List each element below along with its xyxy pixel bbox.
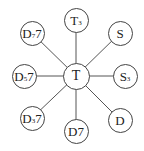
node-center-T: T: [63, 63, 90, 90]
node-label: T: [72, 69, 81, 83]
node-label: D: [115, 114, 124, 127]
node-D57: D57: [12, 64, 37, 89]
node-D77: D77: [20, 21, 45, 46]
node-D37: D37: [20, 106, 45, 131]
node-D: D: [108, 108, 133, 133]
node-S: S: [108, 21, 133, 46]
node-suffix: 7: [27, 70, 34, 83]
node-subscript: 3: [78, 20, 82, 27]
chord-diagram: T T3 S S3 D D7 D37 D57 D77: [0, 0, 144, 151]
node-D7: D7: [64, 119, 89, 144]
node-suffix: 7: [77, 125, 84, 138]
node-subscript: 3: [127, 76, 131, 83]
node-label: S: [120, 70, 127, 83]
node-suffix: 7: [35, 112, 42, 125]
node-label: D: [22, 27, 31, 40]
node-suffix: 7: [35, 27, 42, 40]
node-label: D: [14, 70, 23, 83]
node-S3: S3: [113, 64, 138, 89]
node-label: S: [116, 27, 123, 40]
node-label: D: [22, 112, 31, 125]
node-label: T: [70, 14, 78, 27]
node-T3: T3: [64, 8, 89, 33]
node-label: D: [68, 125, 77, 138]
